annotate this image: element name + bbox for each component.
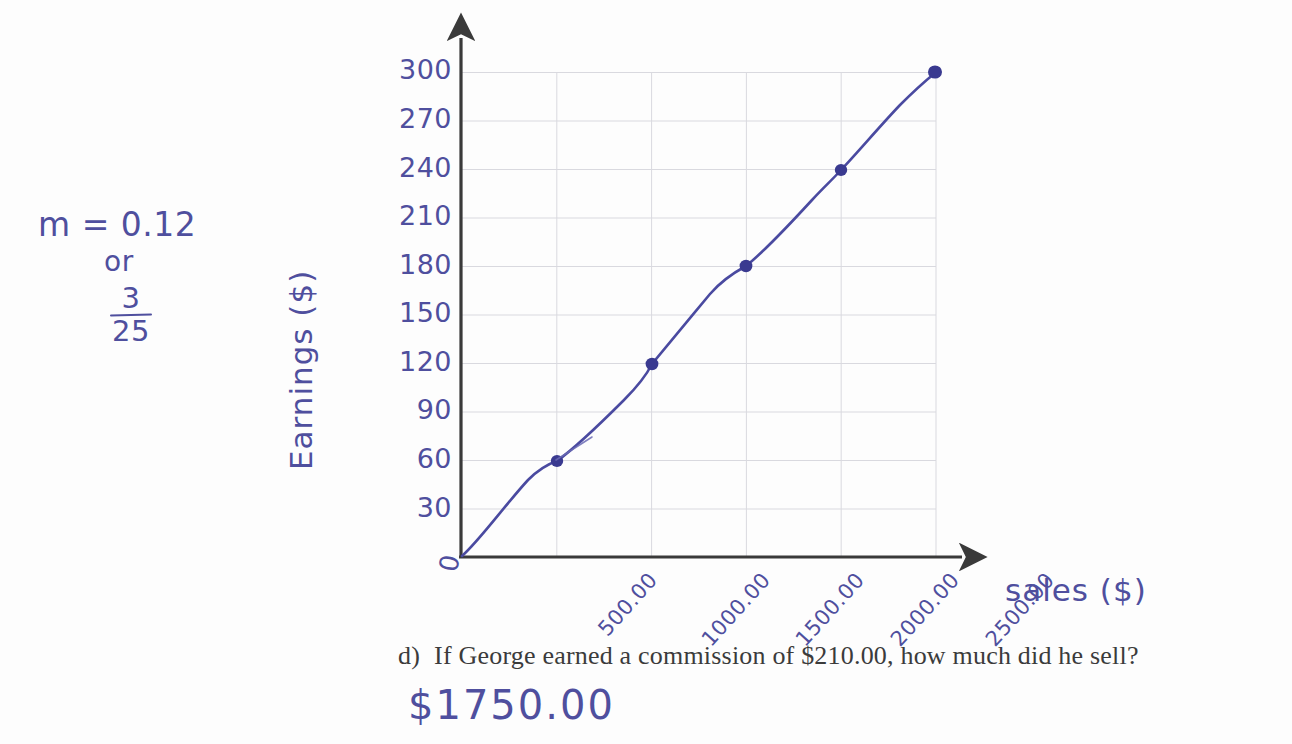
y-axis-title: Earnings ($) bbox=[283, 8, 319, 238]
x-tick-500: 500.00 bbox=[593, 568, 662, 641]
x-axis-title: sales ($) bbox=[1005, 572, 1147, 608]
x-tick-2000: 2000.00 bbox=[886, 568, 964, 651]
x-tick-1500: 1500.00 bbox=[791, 568, 869, 651]
question-body: If George earned a commission of $210.00… bbox=[434, 641, 1139, 670]
x-tick-1000: 1000.00 bbox=[697, 568, 775, 651]
worksheet-page: m = 0.12 or 3 25 bbox=[0, 0, 1292, 744]
answer-value: $1750.00 bbox=[408, 682, 615, 728]
question-label: d) bbox=[398, 641, 420, 670]
question-text-line: d)If George earned a commission of $210.… bbox=[398, 641, 1139, 671]
y-axis-title-text: Earnings ($) bbox=[283, 240, 319, 470]
